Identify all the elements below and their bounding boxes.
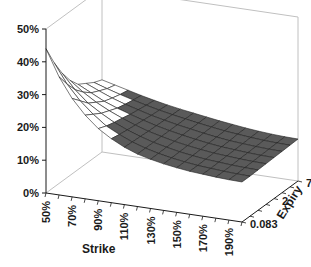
expiry-axis-tick (242, 222, 246, 223)
strike-axis-tick (71, 197, 72, 201)
z-tick-label: 30% (17, 89, 39, 101)
strike-tick-label: 110% (118, 212, 130, 240)
strike-tick-label: 150% (171, 220, 183, 248)
strike-axis: 50%70%90%110%130%150%170%190% (40, 193, 242, 256)
strike-axis-tick (136, 207, 137, 211)
strike-axis-tick (84, 199, 85, 203)
expiry-axis-tick (298, 181, 302, 182)
strike-axis-tick (97, 201, 98, 205)
strike-tick-label: 130% (145, 216, 157, 244)
frame-line (46, 0, 102, 29)
strike-tick-label: 190% (223, 228, 235, 256)
expiry-tick-label: 0.083 (250, 218, 278, 230)
strike-tick-label: 50% (40, 201, 52, 223)
surface-cell (46, 49, 67, 84)
z-tick-label: 10% (17, 154, 39, 166)
expiry-axis-title: Expiry (274, 183, 305, 222)
expiry-tick-label: 7 (306, 177, 311, 189)
strike-axis-tick (189, 214, 190, 218)
expiry-axis-tick (274, 199, 278, 200)
volatility-surface-chart: 0%10%20%30%40%50% 50%70%90%110%130%150%1… (0, 0, 311, 267)
expiry-axis-tick (266, 204, 270, 205)
expiry-axis: 0.08327 (242, 177, 311, 230)
strike-axis-tick (202, 216, 203, 220)
strike-axis-tick (110, 203, 111, 207)
strike-axis-tick (241, 222, 242, 226)
surface-mesh (46, 49, 298, 182)
frame-line (46, 152, 102, 193)
strike-axis-tick (45, 193, 46, 197)
strike-axis-tick (123, 205, 124, 209)
z-tick-label: 20% (17, 121, 39, 133)
frame-line (102, 0, 298, 17)
strike-axis-tick (228, 220, 229, 224)
strike-axis-title: Strike (82, 242, 116, 256)
expiry-axis-tick (258, 210, 262, 211)
strike-axis-tick (176, 212, 177, 216)
strike-tick-label: 90% (92, 209, 104, 231)
strike-axis-tick (163, 210, 164, 214)
z-tick-label: 0% (23, 187, 39, 199)
strike-axis-tick (215, 218, 216, 222)
strike-axis-tick (58, 195, 59, 199)
z-tick-label: 50% (17, 23, 39, 35)
z-tick-label: 40% (17, 56, 39, 68)
strike-axis-tick (150, 208, 151, 212)
strike-tick-label: 70% (66, 205, 78, 227)
z-axis: 0%10%20%30%40%50% (17, 23, 46, 199)
strike-tick-label: 170% (197, 224, 209, 252)
expiry-axis-tick (250, 216, 254, 217)
